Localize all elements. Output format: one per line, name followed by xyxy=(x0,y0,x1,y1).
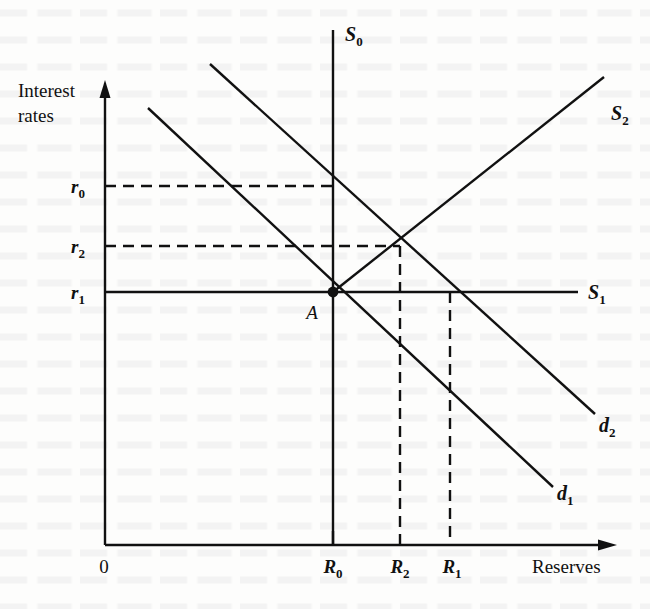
curve-label-S1-sub: 1 xyxy=(599,292,606,307)
svg-text:S2: S2 xyxy=(611,102,629,128)
curve-label-S1-base: S xyxy=(588,281,599,303)
origin-label: 0 xyxy=(99,556,109,577)
y-tick-labels: r0 r2 r1 xyxy=(71,176,85,307)
svg-text:R0: R0 xyxy=(322,556,342,581)
curve-d2 xyxy=(210,64,595,414)
svg-text:S1: S1 xyxy=(588,281,606,307)
y-axis-arrowhead xyxy=(100,80,111,98)
curve-label-S0-base: S xyxy=(345,23,356,45)
x-tick-R0-base: R xyxy=(322,556,336,577)
curve-label-S2-sub: 2 xyxy=(622,113,629,128)
svg-text:R1: R1 xyxy=(441,556,461,581)
curves-group xyxy=(105,30,604,545)
x-tick-R1-base: R xyxy=(441,556,455,577)
svg-text:S0: S0 xyxy=(345,23,363,49)
y-tick-r1-sub: 1 xyxy=(78,292,85,307)
x-tick-R1-sub: 1 xyxy=(455,566,462,581)
y-axis-title-line1: Interest xyxy=(18,80,76,101)
svg-text:r2: r2 xyxy=(71,236,85,261)
y-tick-r2-sub: 2 xyxy=(78,246,85,261)
svg-text:R2: R2 xyxy=(389,556,409,581)
point-A-marker xyxy=(328,287,339,298)
svg-text:r1: r1 xyxy=(71,282,85,307)
x-tick-R0-sub: 0 xyxy=(336,566,343,581)
y-axis-title-line2: rates xyxy=(18,105,54,126)
curve-label-S2-base: S xyxy=(611,102,622,124)
economics-diagram: r0 r2 r1 R0 R2 R1 0 Interest rates xyxy=(0,0,650,609)
x-axis-title: Reserves xyxy=(532,556,601,577)
curve-label-d1-sub: 1 xyxy=(567,493,574,508)
curve-labels-group: S0 S1 S2 d1 d2 xyxy=(345,23,629,508)
curve-label-S0-sub: 0 xyxy=(356,34,363,49)
svg-text:r0: r0 xyxy=(71,176,85,201)
svg-text:d2: d2 xyxy=(599,414,616,440)
svg-text:d1: d1 xyxy=(557,482,574,508)
curve-label-d2-sub: 2 xyxy=(609,425,616,440)
x-axis-arrowhead xyxy=(598,540,617,551)
y-tick-r0-sub: 0 xyxy=(78,186,85,201)
x-tick-R2-base: R xyxy=(389,556,403,577)
axes-group xyxy=(100,80,618,551)
x-tick-labels: R0 R2 R1 xyxy=(322,556,461,581)
curve-S2 xyxy=(333,77,604,292)
point-label-A: A xyxy=(304,302,318,323)
x-tick-R2-sub: 2 xyxy=(403,566,410,581)
figure-page: r0 r2 r1 R0 R2 R1 0 Interest rates xyxy=(0,0,650,609)
